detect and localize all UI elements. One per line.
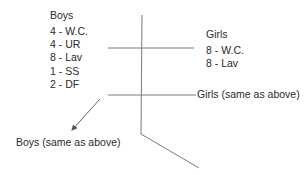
main-vertical-line — [141, 15, 199, 168]
boys-fixture-list: 4 - W.C. 4 - UR 8 - Lav 1 - SS 2 - DF — [50, 25, 88, 91]
boys-same-label: Boys (same as above) — [16, 136, 120, 149]
boys-fixture-item: 8 - Lav — [50, 51, 88, 64]
girls-fixture-item: 8 - Lav — [206, 57, 244, 70]
boys-fixture-item: 4 - W.C. — [50, 25, 88, 38]
boys-title: Boys — [50, 9, 73, 22]
boys-arrow — [72, 99, 100, 130]
girls-fixture-item: 8 - W.C. — [206, 44, 244, 57]
boys-fixture-item: 4 - UR — [50, 38, 88, 51]
boys-fixture-item: 2 - DF — [50, 78, 88, 91]
girls-title: Girls — [206, 28, 228, 41]
boys-fixture-item: 1 - SS — [50, 65, 88, 78]
girls-fixture-list: 8 - W.C. 8 - Lav — [206, 44, 244, 70]
girls-same-label: Girls (same as above) — [197, 88, 300, 101]
